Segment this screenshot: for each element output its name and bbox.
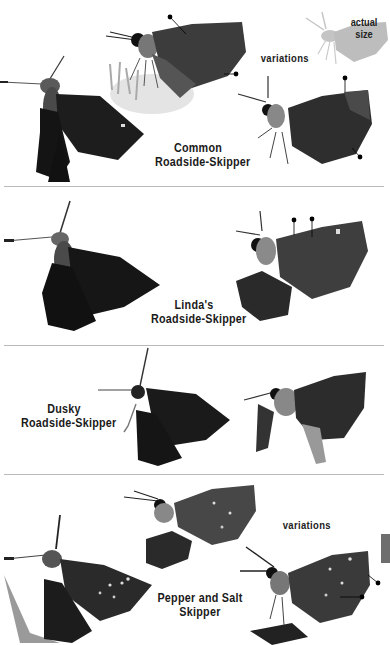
field-mark-pointers [164,12,244,78]
species-section-lindas-roadside-skipper: Linda's Roadside-Skipper [0,187,390,345]
species-name-line2: Roadside-Skipper [155,155,241,169]
species-section-common-roadside-skipper: variations Common Roadside-Skipper [0,0,390,186]
species-name-line2: Roadside-Skipper [151,312,237,326]
butterfly-photo-ventral [240,368,370,464]
species-name: Linda's Roadside-Skipper [151,298,237,326]
species-name: Common Roadside-Skipper [155,141,241,169]
species-name-line1: Common [155,141,241,155]
species-section-dusky-roadside-skipper: Dusky Roadside-Skipper [0,346,390,474]
species-name-line2: Skipper [154,605,247,619]
butterfly-photo-dorsal [4,197,164,335]
variations-label: variations [261,52,309,64]
species-name-line1: Dusky [21,402,107,416]
species-name-line1: Pepper and Salt [154,591,247,605]
butterfly-photo-ventral-variation [236,545,388,645]
species-name: Pepper and Salt Skipper [154,591,247,619]
section-thumb-tab [381,534,390,563]
field-mark-pointers [288,215,328,245]
species-section-pepper-and-salt-skipper: variations Pepper and Salt Skipper [0,475,390,642]
species-name: Dusky Roadside-Skipper [21,402,107,430]
field-mark-pointers-variation [338,74,368,164]
species-name-line2: Roadside-Skipper [21,416,107,430]
species-name-line1: Linda's [151,298,237,312]
butterfly-photo-dorsal [96,348,236,468]
variations-label: variations [283,519,331,531]
